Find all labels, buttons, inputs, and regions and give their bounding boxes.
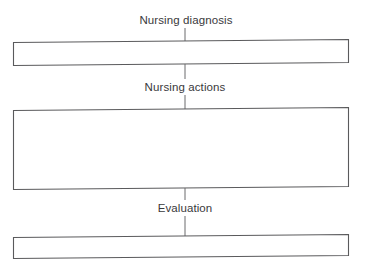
label-nursing-diagnosis: Nursing diagnosis	[139, 14, 232, 27]
label-nursing-actions: Nursing actions	[145, 81, 226, 94]
flowchart-canvas	[0, 0, 368, 268]
label-evaluation: Evaluation	[158, 202, 213, 215]
box-nursing-diagnosis	[14, 40, 349, 66]
nursing-process-flowchart: Nursing diagnosis Nursing actions Evalua…	[0, 0, 368, 268]
box-evaluation	[14, 235, 349, 259]
box-nursing-actions	[14, 108, 349, 190]
